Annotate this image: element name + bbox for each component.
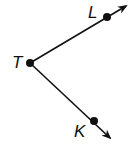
- point-k: [90, 117, 98, 125]
- ray-tk: [30, 63, 110, 138]
- point-t: [26, 59, 34, 67]
- ray-tl: [30, 6, 126, 63]
- label-t: T: [12, 53, 24, 72]
- angle-diagram: T L K: [0, 0, 135, 149]
- label-l: L: [88, 3, 97, 22]
- point-l: [103, 13, 111, 21]
- label-k: K: [74, 122, 86, 141]
